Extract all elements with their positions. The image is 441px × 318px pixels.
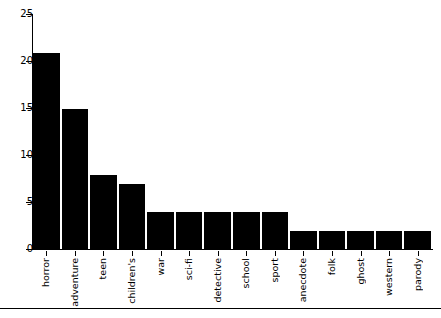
x-tick-mark xyxy=(103,251,104,256)
bar xyxy=(176,212,203,250)
x-axis-label: folk xyxy=(327,258,337,275)
x-tick-mark xyxy=(389,251,390,256)
y-tick-25: 25 xyxy=(0,14,33,15)
bars-container xyxy=(33,14,433,250)
bar xyxy=(376,231,403,250)
bar xyxy=(319,231,346,250)
bar xyxy=(90,175,117,250)
y-tick-label: 25 xyxy=(11,9,33,19)
y-tick-10: 10 xyxy=(0,155,33,156)
x-axis-label: horror xyxy=(41,258,51,287)
x-axis-label: children's xyxy=(127,258,137,304)
x-axis-label: sci-fi xyxy=(184,258,194,280)
y-tick-15: 15 xyxy=(0,108,33,109)
x-axis-label: ghost xyxy=(356,258,366,285)
bar xyxy=(233,212,260,250)
x-tick-mark xyxy=(161,251,162,256)
y-tick-5: 5 xyxy=(0,202,33,203)
y-tick-label: 10 xyxy=(11,150,33,160)
y-tick-label: 15 xyxy=(11,103,33,113)
bar-chart: 0510152025 horroradventureteenchildren's… xyxy=(0,0,441,318)
x-tick-mark xyxy=(418,251,419,256)
x-axis-label: western xyxy=(384,258,394,296)
bar xyxy=(119,184,146,250)
bar xyxy=(404,231,431,250)
x-tick-mark xyxy=(275,251,276,256)
bar xyxy=(147,212,174,250)
x-tick-mark xyxy=(132,251,133,256)
y-tick-20: 20 xyxy=(0,61,33,62)
bar xyxy=(204,212,231,250)
y-tick-label: 0 xyxy=(11,244,33,254)
x-tick-mark xyxy=(303,251,304,256)
x-axis-label: school xyxy=(241,258,251,288)
x-axis-label: war xyxy=(156,258,166,276)
x-tick-mark xyxy=(246,251,247,256)
x-tick-mark xyxy=(332,251,333,256)
x-tick-mark xyxy=(75,251,76,256)
bar xyxy=(33,53,60,250)
bar xyxy=(62,109,89,250)
x-tick-mark xyxy=(361,251,362,256)
x-axis-label: parody xyxy=(413,258,423,291)
x-axis-label: teen xyxy=(98,258,108,279)
y-tick-label: 20 xyxy=(11,56,33,66)
bar xyxy=(347,231,374,250)
bar xyxy=(290,231,317,250)
bottom-divider xyxy=(0,308,441,309)
bar xyxy=(262,212,289,250)
x-axis-label: detective xyxy=(213,258,223,303)
y-tick-label: 5 xyxy=(11,197,33,207)
x-tick-mark xyxy=(189,251,190,256)
x-tick-mark xyxy=(46,251,47,256)
x-axis-label: anecdote xyxy=(298,258,308,302)
y-tick-0: 0 xyxy=(0,249,33,250)
x-axis-label: adventure xyxy=(70,258,80,307)
x-axis-label: sport xyxy=(270,258,280,282)
x-tick-mark xyxy=(218,251,219,256)
